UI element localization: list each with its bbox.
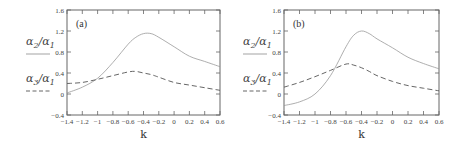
x-tick-label: −0.2 xyxy=(152,118,165,126)
series-alpha2-line xyxy=(67,33,220,93)
series-alpha3-line xyxy=(284,64,439,91)
x-tick-label: −0.8 xyxy=(107,118,120,126)
y-tick-label: 0 xyxy=(278,91,282,99)
x-tick-label: 0 xyxy=(391,118,395,126)
y-tick-label: 1.2 xyxy=(55,28,64,36)
series-alpha2-line xyxy=(284,31,439,106)
x-tick-label: 0.6 xyxy=(435,118,444,126)
figure: −1.4−1.2−1−0.8−0.6−0.4−0.200.20.40.6−0.4… xyxy=(0,0,459,145)
plot-frame xyxy=(67,10,220,115)
legend-label: α3/α1 xyxy=(243,72,272,87)
plot-frame xyxy=(284,10,439,115)
y-tick-label: 1.6 xyxy=(55,7,64,15)
x-tick-label: −0.4 xyxy=(137,118,150,126)
legend-label: α3/α1 xyxy=(26,72,55,87)
y-tick-label: 1.2 xyxy=(272,28,281,36)
y-tick-label: 0.8 xyxy=(55,49,64,57)
panel-label: (b) xyxy=(293,18,305,30)
x-tick-label: −0.8 xyxy=(324,118,337,126)
chart-panel-b: −1.4−1.2−1−0.8−0.6−0.4−0.200.20.40.6−0.4… xyxy=(243,7,444,142)
x-tick-label: −1 xyxy=(311,118,319,126)
legend-label: α2/α1 xyxy=(243,35,272,50)
x-tick-label: 0.6 xyxy=(216,118,225,126)
x-tick-label: −0.6 xyxy=(122,118,135,126)
y-tick-label: 1.6 xyxy=(272,7,281,15)
legend: α2/α1α3/α1 xyxy=(26,35,55,91)
x-tick-label: −0.4 xyxy=(355,118,368,126)
x-tick-label: −1 xyxy=(94,118,102,126)
panel-label: (a) xyxy=(76,18,87,30)
x-axis-label: k xyxy=(358,128,365,141)
y-tick-label: 0.4 xyxy=(272,70,281,78)
x-tick-label: −0.2 xyxy=(371,118,384,126)
x-tick-label: −1.2 xyxy=(76,118,89,126)
x-tick-label: 0 xyxy=(172,118,176,126)
legend: α2/α1α3/α1 xyxy=(243,35,272,91)
x-axis-label: k xyxy=(140,128,147,141)
x-tick-label: −0.6 xyxy=(340,118,353,126)
x-tick-label: 0.4 xyxy=(200,118,209,126)
x-tick-label: 0.4 xyxy=(419,118,428,126)
y-tick-label: 0.8 xyxy=(272,49,281,57)
y-tick-label: −0.4 xyxy=(268,112,281,120)
series-alpha3-line xyxy=(67,71,220,90)
y-tick-label: 0 xyxy=(61,91,65,99)
y-tick-label: 0.4 xyxy=(55,70,64,78)
x-tick-label: 0.2 xyxy=(404,118,413,126)
y-tick-label: −0.4 xyxy=(51,112,64,120)
legend-label: α2/α1 xyxy=(26,35,55,50)
x-tick-label: −1.2 xyxy=(293,118,306,126)
chart-panel-a: −1.4−1.2−1−0.8−0.6−0.4−0.200.20.40.6−0.4… xyxy=(26,7,225,142)
x-tick-label: 0.2 xyxy=(185,118,194,126)
